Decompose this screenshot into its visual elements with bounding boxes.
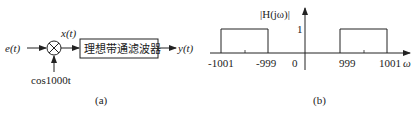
frequency-response-plot: |H(jω)| 1 -1001 -999 0 999 1001 ω (b) [208,8,411,107]
caption-a: (a) [95,94,108,107]
block-diagram: e(t) cos1000t x(t) 理想带通滤波器 y(t) (a) [5,27,194,107]
tick-label-neg999: -999 [256,57,277,69]
output-label: y(t) [177,42,194,55]
x-axis-label: ω [403,57,411,69]
caption-b: (b) [313,94,326,107]
modulator-label: cos1000t [31,74,71,86]
tick-label-neg1001: -1001 [208,57,234,69]
tick-label-zero: 0 [292,57,298,69]
passband-positive [340,29,387,53]
passband-negative [221,29,268,53]
level-label: 1 [297,23,303,35]
tick-label-999: 999 [339,57,356,69]
filter-label: 理想带通滤波器 [84,42,161,56]
tick-label-1001: 1001 [379,57,401,69]
multiplier-icon [47,41,61,55]
input-label: e(t) [5,42,21,55]
intermediate-label: x(t) [60,27,77,40]
figure: e(t) cos1000t x(t) 理想带通滤波器 y(t) (a) |H(j… [0,0,420,117]
y-axis-label: |H(jω)| [260,8,290,21]
